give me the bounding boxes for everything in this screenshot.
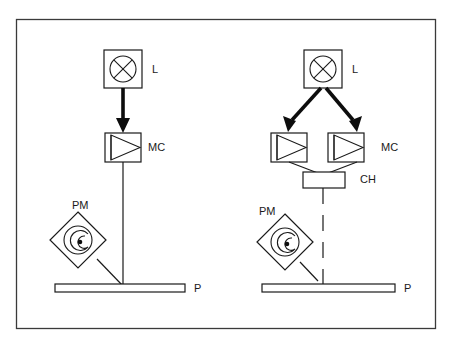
right-plate-label: P (404, 282, 411, 294)
right-beam-branch-right (326, 88, 353, 120)
right-pm-label: PM (259, 205, 276, 217)
left-plate (55, 284, 185, 292)
left-beam-arrowhead-icon (116, 118, 130, 133)
right-pm-sightline (300, 262, 318, 281)
right-mc-box-left (271, 133, 307, 162)
left-pm-label: PM (72, 199, 89, 211)
left-pm-center-dot-icon (78, 240, 83, 245)
right-chopper-box (303, 172, 345, 188)
left-mc-label: MC (148, 141, 165, 153)
right-plate (262, 284, 395, 292)
left-plate-label: P (194, 282, 201, 294)
right-chopper-label: CH (360, 173, 376, 185)
right-lamp-label: L (352, 63, 358, 75)
left-lamp-label: L (152, 63, 158, 75)
right-beam-branch-left (292, 88, 321, 120)
right-mc-box-right (328, 133, 364, 162)
right-mc-label: MC (381, 141, 398, 153)
right-pm-center-dot-icon (285, 242, 290, 247)
left-setup: L MC PM P (50, 50, 201, 294)
left-mc-box (105, 133, 141, 162)
optical-setup-diagram: L MC PM P (0, 0, 452, 348)
figure-root: L MC PM P (0, 0, 452, 348)
left-pm-sightline (97, 259, 123, 286)
right-setup: L MC CH (257, 50, 411, 294)
